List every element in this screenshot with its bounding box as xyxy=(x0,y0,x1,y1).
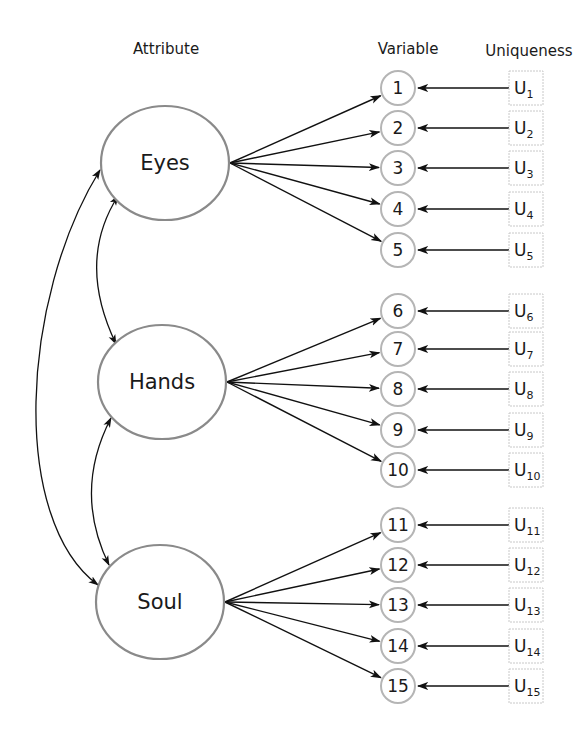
variable-node-11: 11 xyxy=(381,508,415,542)
uniqueness-box-10: U10 xyxy=(509,453,543,487)
uniqueness-box-4: U4 xyxy=(509,192,543,226)
variable-node-13: 13 xyxy=(381,588,415,622)
loading-arrow-15 xyxy=(225,602,381,678)
variable-node-10: 10 xyxy=(381,453,415,487)
loading-arrow-8 xyxy=(227,382,379,388)
uniqueness-box-6: U6 xyxy=(509,294,543,328)
factor-label: Eyes xyxy=(140,151,190,175)
variable-label: 2 xyxy=(393,118,404,138)
variable-node-5: 5 xyxy=(381,233,415,267)
uniqueness-terms: U1U2U3U4U5U6U7U8U9U10U11U12U13U14U15 xyxy=(509,71,543,703)
variable-label: 3 xyxy=(393,158,404,178)
uniqueness-box-3: U3 xyxy=(509,151,543,185)
loading-arrow-13 xyxy=(225,602,379,605)
uniqueness-box-1: U1 xyxy=(509,71,543,105)
uniqueness-arrows xyxy=(418,88,509,686)
loading-arrow-5 xyxy=(230,163,381,241)
uniqueness-box-8: U8 xyxy=(509,372,543,406)
correlation-eyes-hands xyxy=(97,196,118,344)
loading-arrow-11 xyxy=(225,533,381,602)
factor-label: Soul xyxy=(137,590,182,614)
variable-node-4: 4 xyxy=(381,192,415,226)
correlation-hands-soul xyxy=(91,418,111,565)
uniqueness-box-12: U12 xyxy=(509,548,543,582)
uniqueness-box-15: U15 xyxy=(509,669,543,703)
loading-arrow-10 xyxy=(227,382,381,461)
variable-label: 6 xyxy=(393,301,404,321)
variable-label: 15 xyxy=(387,676,409,696)
variable-node-7: 7 xyxy=(381,332,415,366)
variable-node-12: 12 xyxy=(381,548,415,582)
variable-label: 10 xyxy=(387,460,409,480)
variable-label: 11 xyxy=(387,515,409,535)
uniqueness-box-7: U7 xyxy=(509,332,543,366)
variable-node-3: 3 xyxy=(381,151,415,185)
loading-arrow-14 xyxy=(225,602,380,641)
variable-label: 9 xyxy=(393,420,404,440)
factor-soul: Soul xyxy=(96,545,224,659)
factor-hands: Hands xyxy=(98,325,226,439)
factor-eyes: Eyes xyxy=(101,106,229,220)
uniqueness-box-11: U11 xyxy=(509,508,543,542)
variable-node-9: 9 xyxy=(381,413,415,447)
variable-node-1: 1 xyxy=(381,71,415,105)
uniqueness-box-13: U13 xyxy=(509,588,543,622)
correlation-eyes-soul xyxy=(36,170,100,585)
uniqueness-box-2: U2 xyxy=(509,111,543,145)
factor-model-diagram: Attribute Variable Uniqueness EyesHandsS… xyxy=(0,0,588,747)
variable-label: 7 xyxy=(393,339,404,359)
loading-arrow-6 xyxy=(227,318,380,382)
variable-node-6: 6 xyxy=(381,294,415,328)
header-attribute: Attribute xyxy=(133,40,199,58)
variable-label: 12 xyxy=(387,555,409,575)
variable-node-14: 14 xyxy=(381,629,415,663)
variable-label: 5 xyxy=(393,240,404,260)
uniqueness-box-5: U5 xyxy=(509,233,543,267)
loading-arrow-7 xyxy=(227,353,379,382)
uniqueness-box-14: U14 xyxy=(509,629,543,663)
factor-label: Hands xyxy=(129,370,195,394)
observed-variables: 123456789101112131415 xyxy=(381,71,415,703)
variable-label: 8 xyxy=(393,379,404,399)
variable-label: 13 xyxy=(387,595,409,615)
loading-arrow-2 xyxy=(230,132,379,163)
loading-arrow-4 xyxy=(230,163,380,204)
loading-arrow-12 xyxy=(225,569,379,602)
variable-node-15: 15 xyxy=(381,669,415,703)
latent-factors: EyesHandsSoul xyxy=(96,106,229,659)
loading-arrow-9 xyxy=(227,382,380,425)
variable-node-8: 8 xyxy=(381,372,415,406)
variable-label: 1 xyxy=(393,78,404,98)
loading-arrow-3 xyxy=(230,163,379,167)
loading-arrow-1 xyxy=(230,96,381,163)
loading-arrows xyxy=(225,96,381,678)
header-uniqueness: Uniqueness xyxy=(485,42,572,60)
variable-label: 14 xyxy=(387,636,409,656)
header-variable: Variable xyxy=(378,40,439,58)
uniqueness-box-9: U9 xyxy=(509,413,543,447)
variable-node-2: 2 xyxy=(381,111,415,145)
variable-label: 4 xyxy=(393,199,404,219)
